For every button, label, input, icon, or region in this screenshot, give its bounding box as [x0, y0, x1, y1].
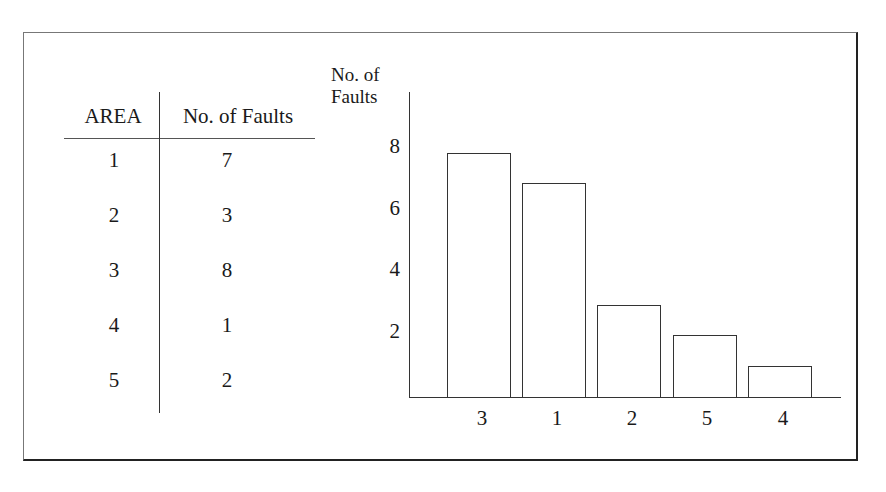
table-header-rule: [64, 138, 315, 139]
x-tick-label: 2: [627, 408, 638, 429]
table-cell-area: 4: [109, 315, 120, 336]
bar-area-2: [597, 305, 661, 397]
bar-area-4: [748, 366, 812, 397]
bar-area-1: [522, 183, 586, 397]
x-tick-label: 5: [702, 408, 713, 429]
y-tick-label: 6: [390, 198, 401, 219]
table-cell-area: 1: [109, 150, 120, 171]
table-cell-faults: 3: [222, 205, 233, 226]
y-axis-label-line1: No. of: [331, 64, 380, 86]
y-tick-label: 8: [390, 136, 401, 157]
x-tick-label: 4: [778, 408, 789, 429]
table-cell-area: 3: [109, 260, 120, 281]
table-cell-faults: 7: [222, 150, 233, 171]
table-header-faults: No. of Faults: [183, 106, 293, 127]
y-axis: [409, 92, 410, 398]
table-header-area: AREA: [84, 106, 141, 127]
bar-area-5: [673, 335, 737, 397]
table-cell-area: 5: [109, 370, 120, 391]
table-column-divider: [159, 92, 160, 413]
x-tick-label: 3: [477, 408, 488, 429]
x-axis: [409, 397, 841, 398]
table-cell-faults: 8: [222, 260, 233, 281]
table-cell-faults: 2: [222, 370, 233, 391]
y-tick-label: 2: [390, 321, 401, 342]
y-tick-label: 4: [390, 259, 401, 280]
table-cell-faults: 1: [222, 315, 233, 336]
y-axis-label-line2: Faults: [331, 86, 377, 108]
bar-area-3: [447, 153, 511, 397]
x-tick-label: 1: [552, 408, 563, 429]
table-cell-area: 2: [109, 205, 120, 226]
